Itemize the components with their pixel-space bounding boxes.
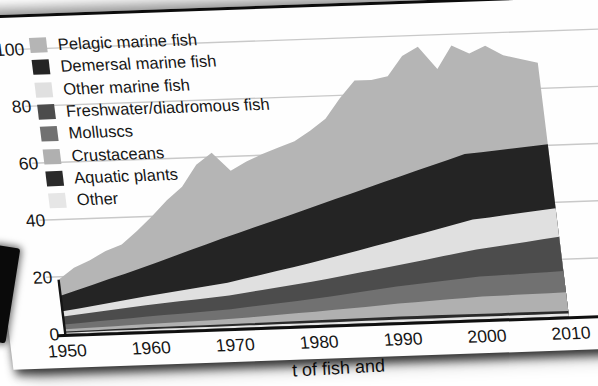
legend-swatch: [32, 60, 51, 76]
legend-item-other: Other: [48, 184, 282, 209]
x-tick-label: 1950: [47, 340, 89, 361]
legend-swatch: [48, 193, 67, 209]
legend-label: Other: [76, 190, 119, 209]
legend-label: Other marine fish: [62, 76, 191, 98]
legend-swatch: [29, 38, 48, 54]
legend-swatch: [37, 104, 56, 120]
legend-item-freshwater-diadromous-fish: Freshwater/diadromous fish: [37, 96, 271, 121]
legend-swatch: [43, 149, 62, 165]
x-tick-label: 2000: [466, 326, 508, 347]
legend-item-crustaceans: Crustaceans: [42, 140, 276, 165]
x-tick-label: 2010: [550, 323, 592, 344]
legend-label: Demersal marine fish: [59, 53, 217, 76]
legend-label: Pelagic marine fish: [57, 31, 198, 53]
legend-item-molluscs: Molluscs: [40, 118, 274, 143]
y-tick-label: 100: [0, 39, 26, 60]
photographed-page: t of fish and 02040608010019501960197019…: [0, 0, 598, 386]
legend-swatch: [34, 82, 53, 98]
y-tick-label: 20: [32, 267, 54, 288]
legend-swatch: [45, 171, 64, 187]
legend-label: Aquatic plants: [73, 166, 179, 187]
y-tick-label: 40: [25, 210, 47, 231]
y-tick-label: 60: [18, 153, 40, 174]
chart-legend: Pelagic marine fishDemersal marine fishO…: [29, 29, 282, 215]
legend-label: Molluscs: [68, 123, 134, 142]
legend-label: Freshwater/diadromous fish: [65, 96, 271, 120]
x-tick-label: 1970: [215, 334, 257, 355]
x-tick-label: 1990: [382, 328, 424, 349]
y-tick-label: 80: [11, 96, 33, 117]
legend-swatch: [40, 126, 59, 142]
figure-card: 0204060801001950196019701980199020002010…: [0, 0, 598, 370]
legend-item-demersal-marine-fish: Demersal marine fish: [32, 51, 266, 76]
x-tick-label: 1960: [131, 337, 173, 358]
x-tick-label: 1980: [299, 331, 341, 352]
legend-label: Crustaceans: [70, 144, 165, 164]
legend-item-aquatic-plants: Aquatic plants: [45, 162, 279, 187]
